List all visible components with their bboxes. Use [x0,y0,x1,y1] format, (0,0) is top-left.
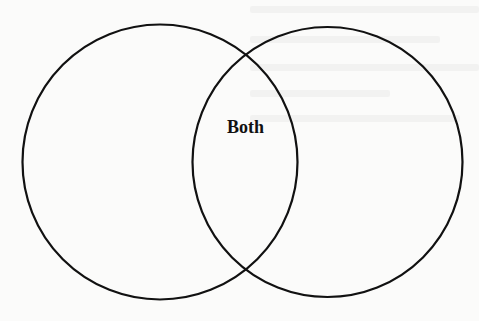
venn-diagram-canvas: Both [0,0,479,321]
right-set-circle [193,27,463,297]
left-set-circle [23,25,298,300]
intersection-label: Both [227,117,264,138]
venn-circles [0,0,479,321]
